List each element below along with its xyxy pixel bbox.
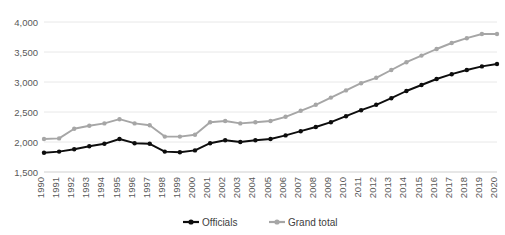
x-axis-tick-label: 2008 (307, 177, 318, 198)
data-point-grandtotal-2014 (404, 60, 408, 64)
data-point-officials-2006 (283, 133, 287, 137)
x-axis-tick-label: 2016 (428, 177, 439, 198)
line-chart: 1,5002,0002,5003,0003,5004,0001990199119… (0, 0, 505, 235)
x-axis-tick-label: 1996 (126, 177, 137, 198)
chart-canvas: 1,5002,0002,5003,0003,5004,0001990199119… (0, 0, 505, 235)
x-axis-tick-label: 2020 (488, 177, 499, 198)
legend-item-grandtotal[interactable]: Grand total (269, 217, 337, 228)
x-axis-tick-label: 2004 (246, 177, 257, 198)
data-point-officials-2004 (253, 138, 257, 142)
x-axis-tick-label: 2000 (186, 177, 197, 198)
data-point-grandtotal-2017 (450, 41, 454, 45)
data-point-grandtotal-1996 (132, 121, 136, 125)
data-point-officials-2009 (329, 120, 333, 124)
y-axis-tick-label: 2,500 (14, 107, 38, 118)
data-point-officials-1993 (87, 144, 91, 148)
data-point-grandtotal-2008 (314, 103, 318, 107)
legend-label-grandtotal: Grand total (288, 217, 337, 228)
data-point-officials-2000 (193, 148, 197, 152)
x-axis-tick-label: 2006 (277, 177, 288, 198)
data-point-officials-2020 (495, 62, 499, 66)
data-point-grandtotal-2011 (359, 81, 363, 85)
series-line-grandtotal (44, 34, 497, 139)
data-point-officials-2008 (314, 125, 318, 129)
data-point-officials-2017 (450, 72, 454, 76)
data-point-grandtotal-2004 (253, 120, 257, 124)
x-axis-tick-label: 2019 (473, 177, 484, 198)
x-axis-tick-label: 2007 (292, 177, 303, 198)
data-point-grandtotal-1998 (163, 134, 167, 138)
data-point-grandtotal-1991 (57, 136, 61, 140)
data-point-grandtotal-2016 (434, 47, 438, 51)
data-point-officials-2015 (419, 83, 423, 87)
data-point-officials-2013 (389, 96, 393, 100)
x-axis-tick-label: 2010 (337, 177, 348, 198)
data-point-officials-2005 (268, 137, 272, 141)
legend-swatch-marker-grandtotal (274, 219, 279, 224)
data-point-officials-2001 (208, 141, 212, 145)
data-point-grandtotal-2001 (208, 120, 212, 124)
data-point-grandtotal-2005 (268, 119, 272, 123)
data-point-grandtotal-2015 (419, 53, 423, 57)
y-axis-tick-label: 4,000 (14, 17, 38, 28)
data-point-officials-2002 (223, 138, 227, 142)
data-point-grandtotal-2009 (329, 95, 333, 99)
data-point-officials-1997 (148, 142, 152, 146)
x-axis-tick-label: 1998 (156, 177, 167, 198)
y-axis-tick-label: 3,500 (14, 47, 38, 58)
data-point-officials-1994 (102, 142, 106, 146)
data-point-officials-2016 (434, 77, 438, 81)
data-point-grandtotal-1993 (87, 124, 91, 128)
x-axis-tick-label: 1995 (111, 177, 122, 198)
x-axis-tick-label: 1990 (35, 177, 46, 198)
x-axis-tick-label: 1993 (80, 177, 91, 198)
data-point-grandtotal-2018 (465, 36, 469, 40)
data-point-officials-1990 (42, 151, 46, 155)
data-point-grandtotal-2006 (283, 115, 287, 119)
data-point-grandtotal-1995 (117, 117, 121, 121)
data-point-officials-1995 (117, 137, 121, 141)
data-point-officials-1992 (72, 147, 76, 151)
legend-label-officials: Officials (202, 217, 237, 228)
x-axis-tick-label: 1991 (50, 177, 61, 198)
data-point-grandtotal-2010 (344, 88, 348, 92)
data-point-officials-2014 (404, 89, 408, 93)
data-point-officials-2007 (299, 129, 303, 133)
y-axis-tick-label: 1,500 (14, 167, 38, 178)
data-point-grandtotal-2019 (480, 32, 484, 36)
data-point-grandtotal-2012 (374, 76, 378, 80)
x-axis-tick-label: 2002 (216, 177, 227, 198)
x-axis-tick-label: 2018 (458, 177, 469, 198)
x-axis-tick-label: 2009 (322, 177, 333, 198)
legend-item-officials[interactable]: Officials (183, 217, 237, 228)
data-point-grandtotal-2020 (495, 32, 499, 36)
x-axis-tick-label: 2012 (367, 177, 378, 198)
data-point-officials-2018 (465, 68, 469, 72)
data-point-officials-1996 (132, 141, 136, 145)
data-point-grandtotal-2002 (223, 119, 227, 123)
x-axis-tick-label: 2005 (262, 177, 273, 198)
data-point-grandtotal-1997 (148, 123, 152, 127)
data-point-officials-1991 (57, 149, 61, 153)
x-axis-tick-label: 2017 (443, 177, 454, 198)
x-axis-tick-label: 2014 (397, 177, 408, 198)
x-axis-tick-label: 2003 (231, 177, 242, 198)
y-axis-tick-label: 2,000 (14, 137, 38, 148)
data-point-grandtotal-1992 (72, 127, 76, 131)
data-point-officials-1999 (178, 150, 182, 154)
data-point-officials-2011 (359, 108, 363, 112)
legend-swatch-marker-officials (188, 219, 193, 224)
x-axis-tick-label: 2001 (201, 177, 212, 198)
x-axis-tick-label: 1997 (141, 177, 152, 198)
data-point-grandtotal-1990 (42, 137, 46, 141)
data-point-grandtotal-1999 (178, 134, 182, 138)
x-axis-tick-label: 1992 (65, 177, 76, 198)
x-axis-tick-label: 1999 (171, 177, 182, 198)
data-point-officials-2003 (238, 140, 242, 144)
x-axis-tick-label: 2011 (352, 177, 363, 197)
data-point-officials-2019 (480, 64, 484, 68)
x-axis-tick-label: 2015 (413, 177, 424, 198)
data-point-officials-2010 (344, 114, 348, 118)
data-point-grandtotal-2007 (299, 109, 303, 113)
x-axis-tick-label: 2013 (382, 177, 393, 198)
